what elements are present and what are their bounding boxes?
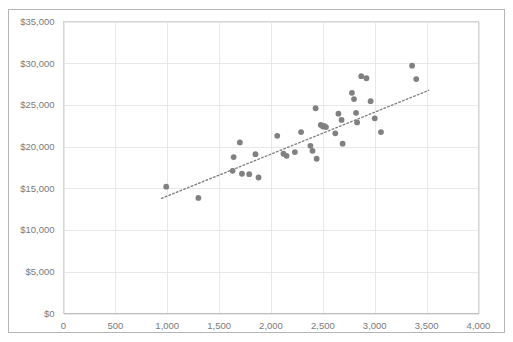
data-point [310, 148, 316, 154]
y-axis-tick-label: $5,000 [25, 266, 54, 277]
data-point [274, 133, 280, 139]
y-axis-tick-label: $15,000 [20, 183, 54, 194]
y-axis-tick-label: $20,000 [20, 141, 54, 152]
y-axis-tick-label: $35,000 [20, 16, 54, 27]
data-point [284, 153, 290, 159]
data-point [239, 171, 245, 177]
data-point [298, 129, 304, 135]
data-point [368, 98, 374, 104]
chart-outer-border [9, 10, 505, 333]
x-axis-tick-label: 4,000 [467, 320, 491, 331]
y-axis-tick-labels: $0$5,000$10,000$15,000$20,000$25,000$30,… [20, 16, 54, 319]
data-point [351, 96, 357, 102]
x-axis-tick-labels: 05001,0001,5002,0002,5003,0003,5004,000 [61, 320, 491, 331]
data-point [358, 73, 364, 79]
data-point [372, 115, 378, 121]
data-point [364, 75, 370, 81]
scatter-chart: $0$5,000$10,000$15,000$20,000$25,000$30,… [0, 0, 513, 342]
data-point [237, 140, 243, 146]
data-point [308, 143, 314, 149]
x-axis-tick-label: 3,000 [363, 320, 387, 331]
data-point [163, 184, 169, 190]
data-point [340, 141, 346, 147]
data-point [292, 149, 298, 155]
y-axis-tick-label: $10,000 [20, 224, 54, 235]
x-axis-tick-label: 2,500 [311, 320, 335, 331]
gridlines [64, 22, 480, 315]
data-point [323, 124, 329, 130]
data-point [313, 105, 319, 111]
trendline [162, 90, 429, 198]
x-axis-tick-label: 1,500 [207, 320, 231, 331]
data-point [230, 168, 236, 174]
x-axis-tick-label: 0 [61, 320, 66, 331]
data-point [349, 90, 355, 96]
data-point [409, 63, 415, 69]
data-point [353, 110, 359, 116]
x-axis-tick-label: 1,000 [155, 320, 179, 331]
data-point [246, 171, 252, 177]
data-point-group [163, 63, 419, 201]
data-point [253, 151, 259, 157]
data-point [314, 156, 320, 162]
data-point [231, 154, 237, 160]
x-axis-tick-label: 2,000 [259, 320, 283, 331]
x-axis-tick-label: 500 [107, 320, 123, 331]
y-axis-tick-label: $30,000 [20, 58, 54, 69]
y-axis-tick-label: $25,000 [20, 99, 54, 110]
data-point [378, 129, 384, 135]
chart-canvas: $0$5,000$10,000$15,000$20,000$25,000$30,… [0, 0, 513, 342]
data-point [339, 117, 345, 123]
data-point [332, 130, 338, 136]
y-axis-tick-label: $0 [44, 308, 55, 319]
data-point [195, 195, 201, 201]
x-axis-tick-label: 3,500 [415, 320, 439, 331]
data-point [336, 111, 342, 117]
data-point [256, 175, 262, 181]
data-point [413, 76, 419, 82]
